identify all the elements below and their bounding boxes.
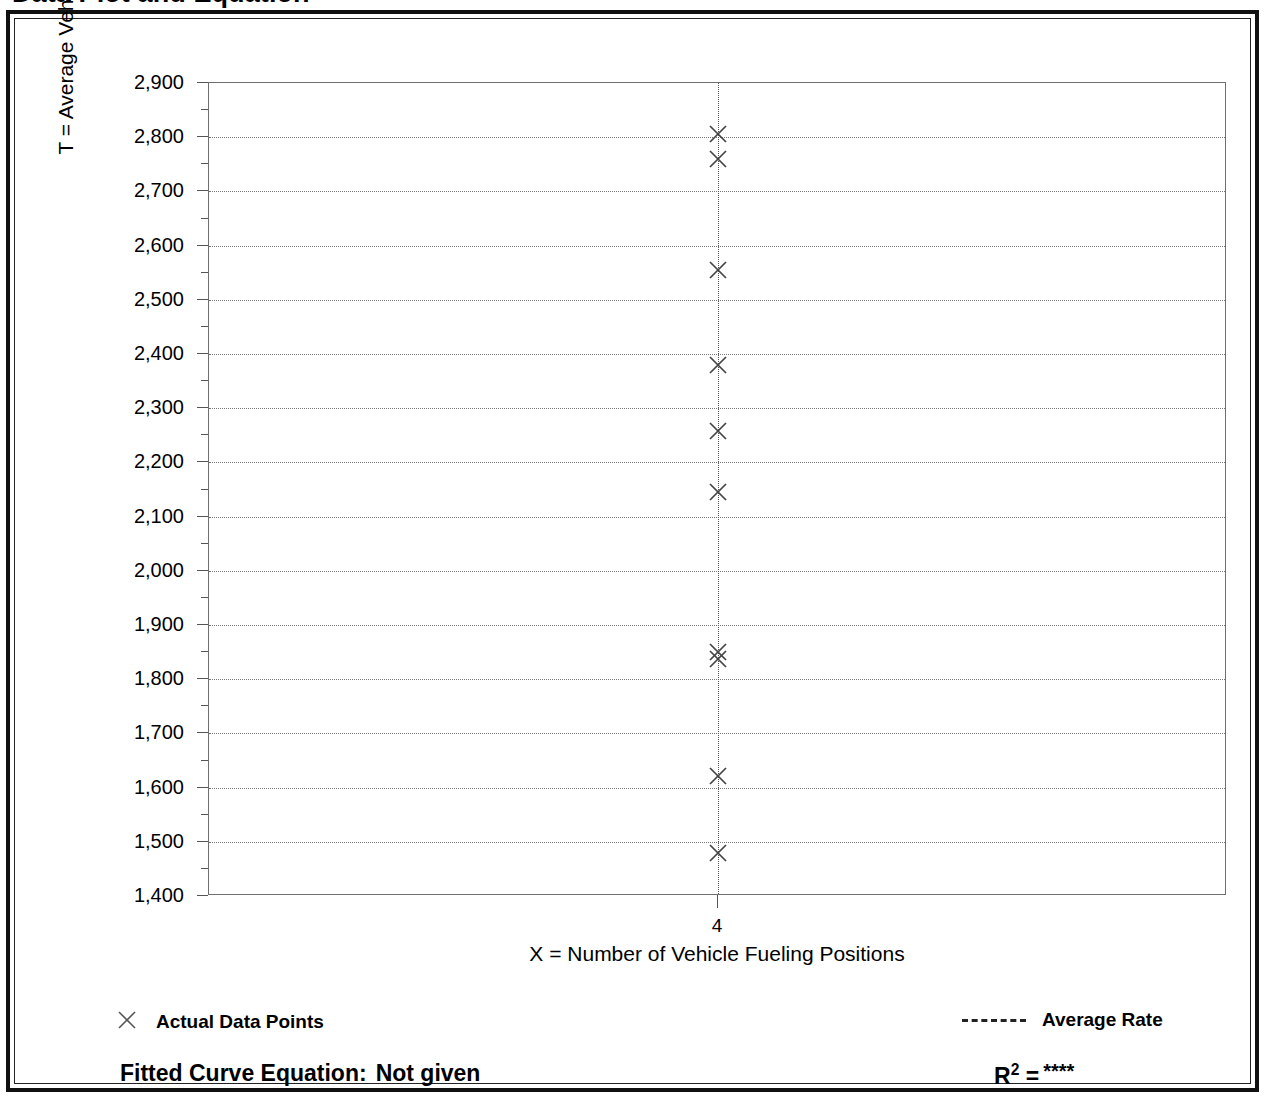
fitted-equation-value: Not given [376,1060,481,1086]
data-point [707,481,729,503]
y-axis-minor-tick [201,218,208,219]
y-axis-minor-tick [201,868,208,869]
y-axis-tick-label: 2,000 [106,560,184,580]
y-axis-tick-label: 1,500 [106,831,184,851]
legend-actual-label: Actual Data Points [156,1011,324,1033]
r-squared-value: R2 =**** [994,1060,1074,1090]
gridline [209,517,1225,518]
y-axis-tick-label: 1,700 [106,722,184,742]
dashed-line-icon [962,1019,1026,1022]
y-axis-minor-tick [201,814,208,815]
gridline [209,679,1225,680]
data-point [707,842,729,864]
y-axis-tick-label: 2,400 [106,343,184,363]
x-axis-tick-label: 4 [687,915,747,937]
y-axis-minor-tick [201,651,208,652]
y-axis-title: T = Average Vehicle Trip Ends [54,0,78,264]
y-axis-tick [197,678,208,679]
legend-average-rate: Average Rate [962,1009,1163,1031]
gridline [209,788,1225,789]
r-squared-exponent: 2 [1011,1061,1020,1078]
legend-average-label: Average Rate [1042,1009,1163,1031]
gridline [209,625,1225,626]
y-axis-minor-tick [201,272,208,273]
y-axis-minor-tick [201,543,208,544]
y-axis-tick [197,245,208,246]
y-axis-tick [197,82,208,83]
y-axis-tick-label: 1,900 [106,614,184,634]
y-axis-tick [197,732,208,733]
data-point [707,420,729,442]
y-axis-tick [197,841,208,842]
y-axis-tick [197,895,208,896]
y-axis-minor-tick [201,760,208,761]
y-axis-tick [197,516,208,517]
r-squared-label: R [994,1063,1011,1089]
y-axis-tick-label: 2,800 [106,126,184,146]
r-squared-equals: = [1026,1063,1039,1089]
gridline [209,408,1225,409]
r-squared-stars: **** [1043,1060,1074,1082]
y-axis-minor-tick [201,163,208,164]
legend-actual-data-points: Actual Data Points [116,1009,324,1035]
x-axis-tick [717,895,718,908]
data-point [707,148,729,170]
gridline [209,191,1225,192]
y-axis-tick-label: 2,900 [106,72,184,92]
y-axis-minor-tick [201,380,208,381]
y-axis-tick-label: 2,300 [106,397,184,417]
y-axis-tick [197,407,208,408]
y-axis-minor-tick [201,489,208,490]
y-axis-tick [197,299,208,300]
y-axis-minor-tick [201,434,208,435]
y-axis-tick-label: 2,500 [106,289,184,309]
y-axis-tick-label: 1,400 [106,885,184,905]
y-axis-minor-tick [201,109,208,110]
plot-area [208,82,1226,895]
y-axis-tick [197,353,208,354]
y-axis-tick [197,461,208,462]
y-axis-tick-label: 2,200 [106,451,184,471]
y-axis-tick [197,190,208,191]
data-point [707,123,729,145]
data-point [707,354,729,376]
data-point [707,648,729,670]
x-axis: 4 [208,895,1226,945]
y-axis-tick [197,136,208,137]
x-axis-title: X = Number of Vehicle Fueling Positions [208,942,1226,966]
gridline [209,246,1225,247]
y-axis-tick-label: 2,700 [106,180,184,200]
y-axis-tick-label: 1,800 [106,668,184,688]
y-axis-tick-label: 1,600 [106,777,184,797]
y-axis-minor-tick [201,597,208,598]
y-axis-tick-label: 2,600 [106,235,184,255]
x-marker-icon [116,1009,138,1035]
y-axis-minor-tick [201,326,208,327]
fitted-equation-label: Fitted Curve Equation: [120,1060,367,1086]
fitted-curve-equation: Fitted Curve Equation:Not given [120,1060,480,1087]
y-axis-tick-label: 2,100 [106,506,184,526]
gridline [209,462,1225,463]
data-point [707,259,729,281]
gridline [209,733,1225,734]
gridline [209,571,1225,572]
y-axis-tick [197,570,208,571]
gridline [209,300,1225,301]
y-axis-minor-tick [201,705,208,706]
figure-frame: T = Average Vehicle Trip Ends 1,4001,500… [6,10,1259,1092]
data-point [707,765,729,787]
y-axis-tick [197,624,208,625]
y-axis-tick [197,787,208,788]
